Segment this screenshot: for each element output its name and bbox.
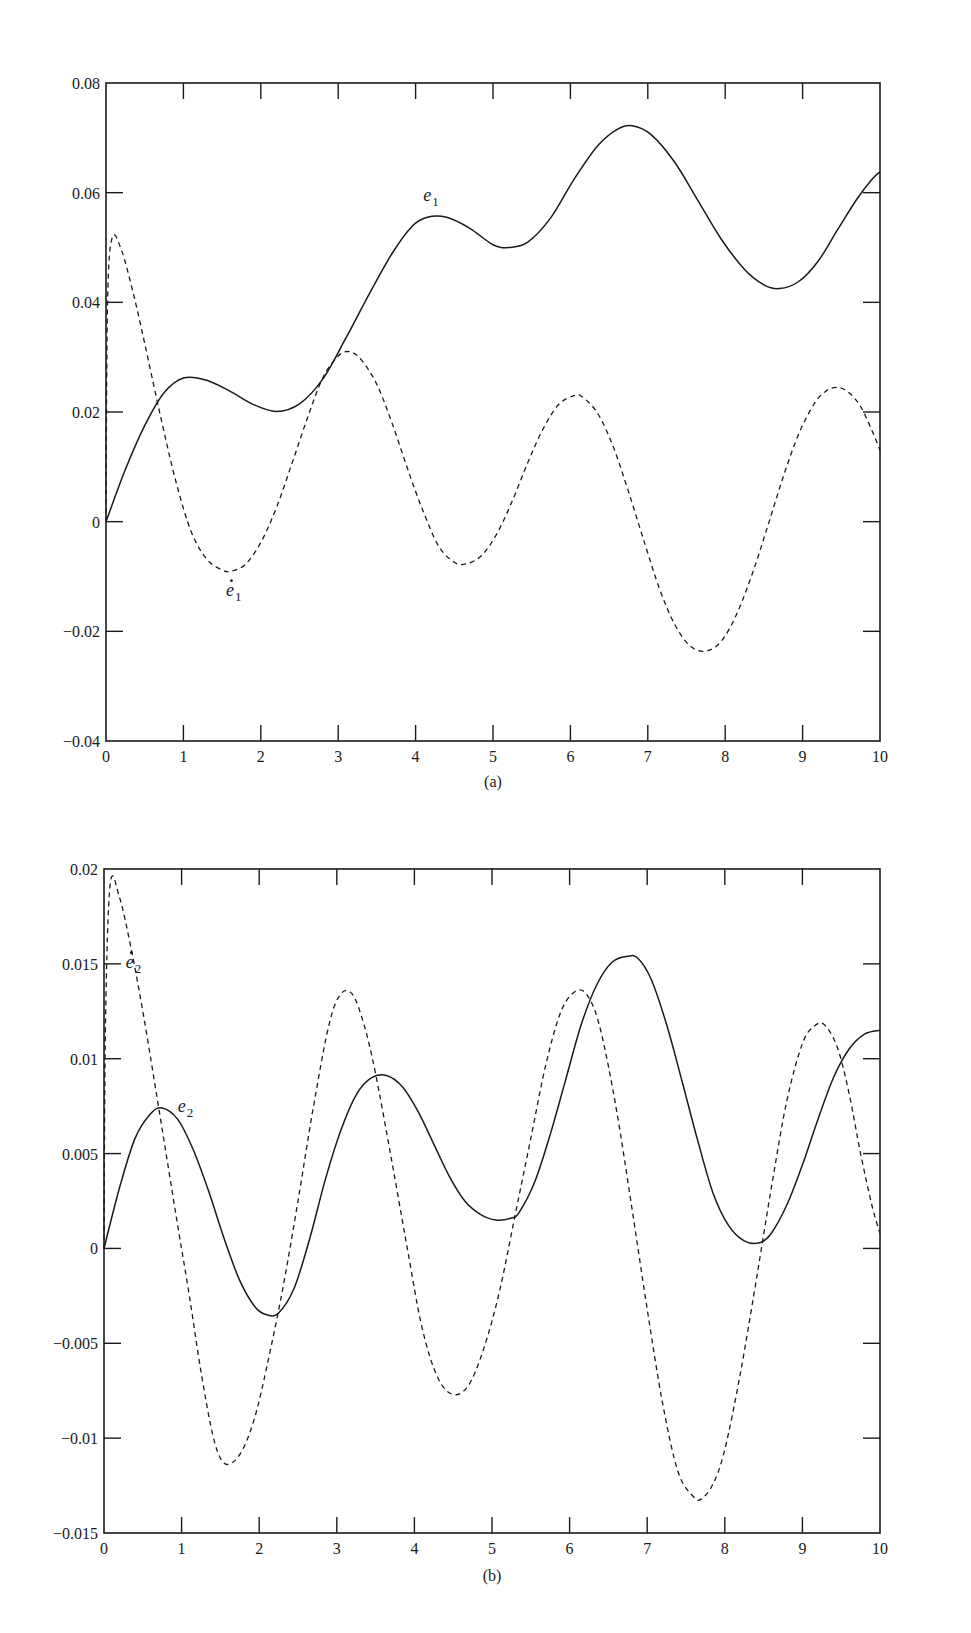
curve-label-e1_dot: e1: [226, 579, 242, 603]
x-tick-label: 9: [798, 1540, 806, 1557]
chart-panel-a: 012345678910−0.04−0.0200.020.040.060.08e…: [63, 75, 888, 791]
figure-caption: (a): [484, 773, 502, 791]
y-tick-label: 0: [92, 514, 100, 531]
svg-text:e1: e1: [423, 185, 439, 209]
plot-frame: [104, 869, 880, 1533]
y-tick-label: −0.04: [63, 733, 100, 750]
derivative-dot-icon: [230, 579, 233, 582]
y-tick-label: 0: [90, 1240, 98, 1257]
y-tick-label: 0.04: [72, 294, 100, 311]
derivative-dot-icon: [130, 951, 133, 954]
curve-label-e2_dot: e2: [126, 951, 142, 975]
x-tick-label: 9: [799, 748, 807, 765]
svg-text:e2: e2: [178, 1096, 194, 1120]
y-tick-label: 0.08: [72, 75, 100, 92]
svg-text:e2: e2: [126, 952, 142, 976]
y-tick-label: 0.015: [62, 956, 98, 973]
x-tick-label: 4: [410, 1540, 418, 1557]
series-e2-solid-line: [104, 956, 880, 1316]
figure-caption: (b): [483, 1567, 502, 1585]
x-tick-label: 1: [179, 748, 187, 765]
x-tick-label: 5: [489, 748, 497, 765]
y-tick-label: −0.02: [63, 623, 100, 640]
x-tick-label: 10: [872, 748, 888, 765]
chart-panel-b: 012345678910−0.015−0.01−0.00500.0050.010…: [53, 861, 888, 1585]
x-tick-label: 3: [334, 748, 342, 765]
x-tick-label: 4: [412, 748, 420, 765]
svg-text:e1: e1: [226, 580, 242, 604]
y-tick-label: −0.015: [53, 1525, 98, 1542]
y-tick-label: −0.01: [61, 1430, 98, 1447]
x-tick-label: 0: [100, 1540, 108, 1557]
y-tick-label: 0.005: [62, 1146, 98, 1163]
plot-frame: [106, 83, 880, 741]
figure: 012345678910−0.04−0.0200.020.040.060.08e…: [0, 0, 971, 1633]
x-tick-label: 2: [255, 1540, 263, 1557]
series-e2_dot-dashed-line: [104, 876, 880, 1500]
x-tick-label: 0: [102, 748, 110, 765]
series-e1-solid-line: [106, 125, 880, 521]
x-tick-label: 8: [721, 1540, 729, 1557]
x-tick-label: 1: [178, 1540, 186, 1557]
x-tick-label: 7: [643, 1540, 651, 1557]
x-tick-label: 6: [566, 1540, 574, 1557]
x-tick-label: 5: [488, 1540, 496, 1557]
y-tick-label: 0.02: [72, 404, 100, 421]
y-tick-label: 0.02: [70, 861, 98, 878]
y-tick-label: −0.005: [53, 1335, 98, 1352]
x-tick-label: 3: [333, 1540, 341, 1557]
x-tick-label: 6: [566, 748, 574, 765]
y-tick-label: 0.06: [72, 185, 100, 202]
curve-label-e2: e2: [178, 1096, 194, 1120]
x-tick-label: 8: [721, 748, 729, 765]
x-tick-label: 2: [257, 748, 265, 765]
y-tick-label: 0.01: [70, 1051, 98, 1068]
curve-label-e1: e1: [423, 185, 439, 209]
x-tick-label: 7: [644, 748, 652, 765]
series-e1_dot-dashed-line: [106, 235, 880, 652]
x-tick-label: 10: [872, 1540, 888, 1557]
